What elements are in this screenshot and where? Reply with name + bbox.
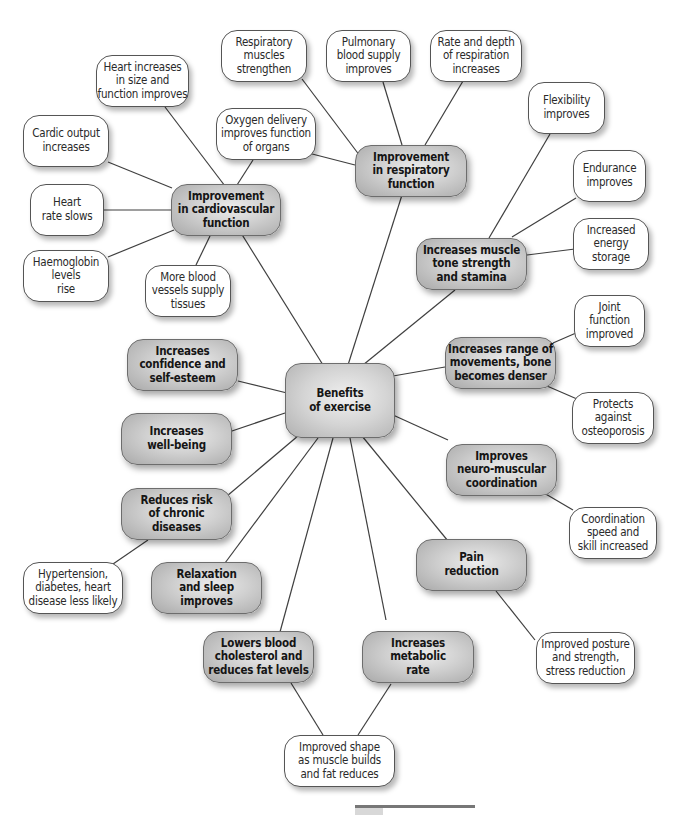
footer-bar xyxy=(355,805,475,808)
mind-map-canvas: Benefits of exercise Improvement in card… xyxy=(0,0,681,815)
leaf-flexibility: Flexibility improves xyxy=(528,82,605,134)
leaf-blood-vessels: More blood vessels supply tissues xyxy=(145,265,231,317)
hub-confidence: Increases confidence and self-esteem xyxy=(127,339,238,391)
hub-cardiovascular: Improvement in cardiovascular function xyxy=(171,184,281,236)
leaf-improved-shape: Improved shape as muscle builds and fat … xyxy=(284,735,395,787)
hub-respiratory: Improvement in respiratory function xyxy=(355,145,467,197)
hub-relaxation-sleep: Relaxation and sleep improves xyxy=(151,562,262,614)
hub-metabolic-rate: Increases metabolic rate xyxy=(362,631,474,683)
leaf-heart-size: Heart increases in size and function imp… xyxy=(96,55,189,107)
leaf-rate-depth: Rate and depth of respiration increases xyxy=(430,30,522,82)
hub-chronic-diseases: Reduces risk of chronic diseases xyxy=(121,488,232,540)
leaf-endurance: Endurance improves xyxy=(573,150,646,202)
hub-cholesterol: Lowers blood cholesterol and reduces fat… xyxy=(203,631,314,683)
leaf-joint-function: Joint function improved xyxy=(574,295,645,347)
leaf-cardiac-output: Cardic output increases xyxy=(23,115,109,167)
hub-range-of-movement: Increases range of movements, bone becom… xyxy=(445,337,556,389)
leaf-coordination-speed: Coordination speed and skill increased xyxy=(569,507,657,559)
hub-muscle-tone: Increases muscle tone strength and stami… xyxy=(416,238,527,290)
hub-pain-reduction: Pain reduction xyxy=(416,539,527,591)
center-node-benefits: Benefits of exercise xyxy=(285,363,395,438)
leaf-hypertension: Hypertension, diabetes, heart disease le… xyxy=(23,562,123,614)
leaf-energy-storage: Increased energy storage xyxy=(573,218,649,270)
leaf-pulmonary: Pulmonary blood supply improves xyxy=(326,30,411,82)
leaf-haemoglobin: Haemoglobin levels rise xyxy=(23,250,109,302)
leaf-respiratory-muscles: Respiratory muscles strengthen xyxy=(221,30,307,82)
hub-well-being: Increases well-being xyxy=(121,413,232,465)
hub-neuro-muscular: Improves neuro-muscular coordination xyxy=(446,444,557,496)
leaf-oxygen-delivery: Oxygen delivery improves function of org… xyxy=(216,108,316,160)
leaf-osteoporosis: Protects against osteoporosis xyxy=(572,392,654,444)
leaf-heart-rate: Heart rate slows xyxy=(30,184,104,236)
leaf-posture: Improved posture and strength, stress re… xyxy=(536,632,635,684)
